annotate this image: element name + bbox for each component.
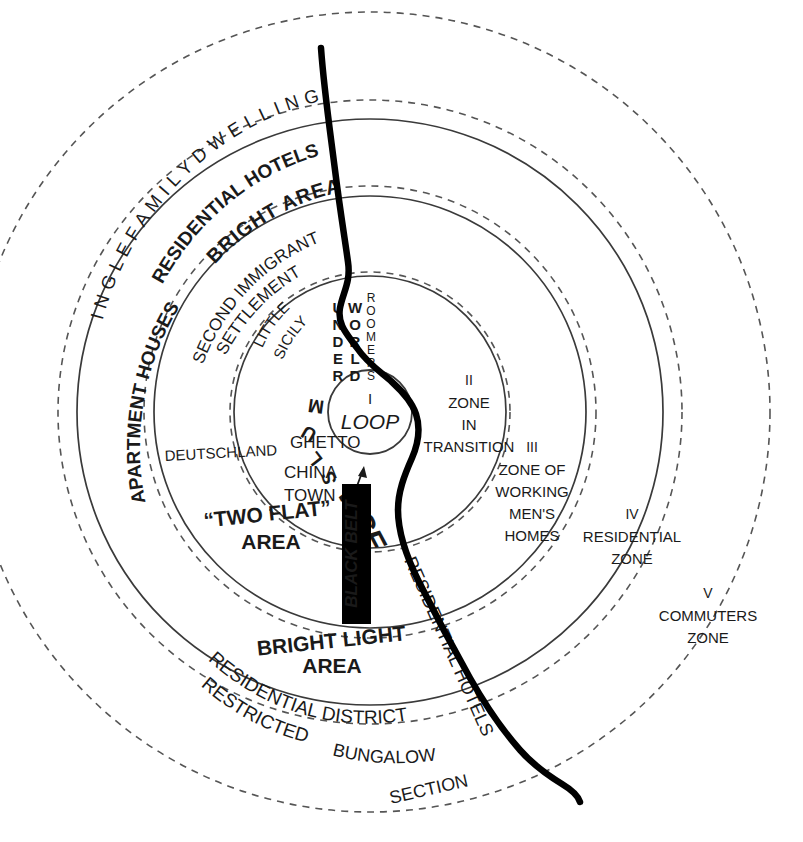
zone-5-numeral: V — [703, 585, 713, 601]
burgess-zone-diagram: I LOOP II ZONE IN TRANSITION III ZONE OF… — [0, 0, 803, 842]
zone-4-numeral: IV — [625, 506, 639, 522]
svg-text:D: D — [350, 367, 361, 384]
svg-text:E: E — [333, 350, 343, 367]
svg-text:O: O — [349, 316, 361, 333]
label-bungalow-text: BUNGALOW — [331, 740, 437, 768]
zone-2-line3: TRANSITION — [424, 438, 515, 455]
zone-4-line2: ZONE — [611, 550, 653, 567]
label-china: CHINA — [284, 463, 338, 482]
zone-2-line1: ZONE — [448, 394, 490, 411]
zone-3-line1: ZONE OF — [499, 461, 566, 478]
svg-text:S: S — [367, 369, 375, 383]
zone-2-numeral: II — [465, 372, 473, 388]
label-two-flat-area: AREA — [241, 530, 301, 553]
label-apartment-houses-text: APARTMENT HOUSES — [123, 298, 183, 506]
svg-text:D: D — [333, 333, 344, 350]
zone-3-line2: WORKING — [495, 483, 568, 500]
zone-1-numeral: I — [368, 390, 372, 407]
svg-text:M: M — [366, 330, 376, 344]
black-belt-label: BLACK BELT — [342, 499, 361, 608]
label-apartment-houses: APARTMENT HOUSES — [123, 298, 183, 506]
zone-3-line4: HOMES — [504, 527, 559, 544]
black-belt: BLACK BELT — [342, 484, 371, 624]
ring-label-group: S I N G L E F A M I L Y D W E L L I N G … — [0, 0, 498, 808]
zone-4-line1: RESIDENTIAL — [583, 528, 681, 545]
label-deutschland: DEUTSCHLAND — [164, 441, 277, 464]
svg-text:O: O — [366, 317, 375, 331]
svg-text:W: W — [348, 299, 363, 316]
zone-3-line3: MEN'S — [509, 505, 555, 522]
svg-text:R: R — [367, 291, 376, 305]
label-bungalow: BUNGALOW — [331, 740, 437, 768]
diagram-canvas: I LOOP II ZONE IN TRANSITION III ZONE OF… — [0, 0, 803, 842]
zone-1-label: LOOP — [341, 410, 399, 433]
zone-5-line2: ZONE — [687, 629, 729, 646]
svg-text:R: R — [333, 367, 344, 384]
label-bright-light-area: AREA — [302, 654, 362, 677]
svg-text:O: O — [366, 304, 375, 318]
label-ghetto: GHETTO — [290, 433, 361, 452]
svg-text:M: M — [307, 395, 326, 418]
zone-2-line2: IN — [462, 416, 477, 433]
zone-5-line1: COMMUTERS — [659, 607, 757, 624]
zone-3-numeral: III — [526, 439, 538, 455]
svg-text:E: E — [367, 343, 375, 357]
